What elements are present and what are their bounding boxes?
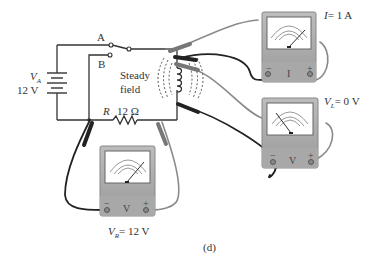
switch-label-b: B: [98, 59, 105, 70]
ammeter-minus: −: [266, 63, 272, 74]
ammeter-plus: +: [307, 63, 313, 74]
source-symbol: V: [30, 70, 37, 82]
switch-contacts: [108, 43, 131, 57]
vl-reading-symbol: V: [324, 95, 331, 107]
vr-meter-minus: −: [104, 198, 110, 209]
source-value: 12 V: [17, 85, 39, 96]
inductor-coil: [177, 68, 182, 92]
figure-caption: (d): [203, 242, 216, 253]
switch-label-a: A: [97, 32, 105, 43]
field-label-line2: field: [120, 84, 140, 95]
ammeter-type: I: [287, 68, 290, 79]
vl-meter-plus: +: [308, 150, 314, 161]
resistor-symbol-label: R: [103, 106, 110, 117]
vr-reading-value: = 12 V: [119, 225, 149, 237]
vl-reading: VL= 0 V: [324, 96, 360, 110]
vr-reading-symbol: V: [108, 225, 115, 237]
ammeter-reading: I= 1 A: [324, 10, 352, 21]
resistor-symbol: [113, 116, 137, 124]
circuit-diagram: [0, 0, 379, 262]
ammeter-reading-value: = 1 A: [328, 9, 353, 21]
vr-meter-type: V: [123, 203, 130, 214]
resistor-value: 12 Ω: [117, 106, 139, 117]
vl-reading-value: = 0 V: [335, 95, 360, 107]
vl-meter-type: V: [289, 155, 296, 166]
vr-reading: VR= 12 V: [108, 226, 149, 240]
battery-symbol: [47, 73, 67, 93]
field-label-line1: Steady: [120, 70, 150, 81]
vr-meter-plus: +: [143, 198, 149, 209]
vl-meter-minus: −: [270, 150, 276, 161]
